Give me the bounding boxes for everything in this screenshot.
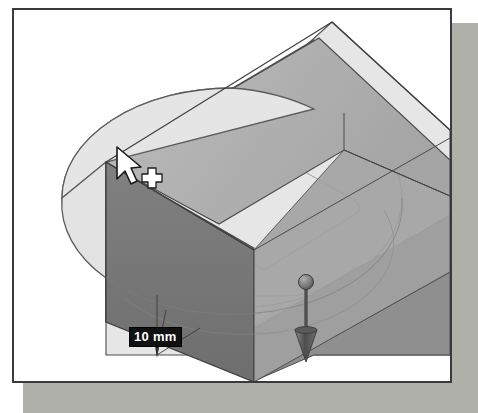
dimension-value-box[interactable]: 10 mm bbox=[129, 327, 182, 347]
cad-viewport[interactable]: 10 mm bbox=[12, 8, 452, 383]
model-canvas[interactable] bbox=[14, 10, 450, 381]
screenshot-root: 10 mm bbox=[0, 0, 478, 413]
model-svg bbox=[14, 10, 450, 381]
